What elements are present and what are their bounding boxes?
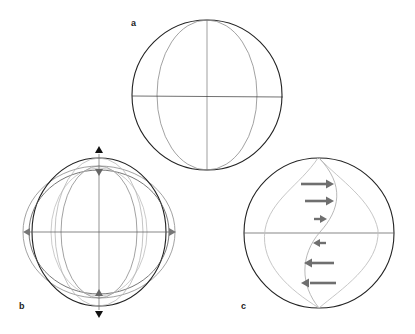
velocity-arrow-3 [314,215,327,223]
arrow-down-outer-icon [95,311,103,318]
panel-c-label: c [241,301,246,311]
arrow-left-icon [23,228,30,236]
panel-b-label: b [19,301,25,311]
velocity-arrow-4 [313,239,326,247]
velocity-arrow-5 [304,259,334,268]
arrow-down-inner-icon [95,169,103,176]
velocity-arrow-1 [301,180,334,189]
panel-b: b [19,146,176,318]
figure-canvas: a b c [0,0,415,334]
velocity-arrow-2 [305,197,334,206]
panel-c: c [241,158,394,311]
arrow-up-inner-icon [95,289,103,296]
velocity-arrow-6 [301,279,336,288]
panel-a-label: a [131,18,137,28]
arrow-up-outer-icon [95,146,103,153]
panel-a: a [131,18,283,170]
horizontal-axis [132,96,283,97]
